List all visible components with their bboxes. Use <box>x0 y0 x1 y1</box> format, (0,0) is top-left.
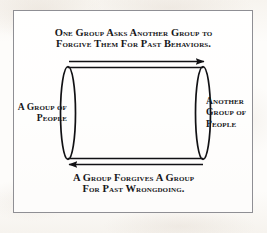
right-group-label-line-2: Group of <box>206 106 264 117</box>
right-group-label-line-3: People <box>206 118 264 129</box>
top-caption-line-2: Forgive Them For Past Behaviors. <box>0 38 267 49</box>
bottom-caption-line-1: A Group Forgives A Group <box>0 172 267 183</box>
top-caption-line-1: One Group Asks Another Group to <box>0 27 267 38</box>
top-caption: One Group Asks Another Group to Forgive … <box>0 27 267 49</box>
bottom-caption-line-2: For Past Wrongdoing. <box>0 183 267 194</box>
cylinder-body <box>68 68 203 159</box>
right-group-label-line-1: Another <box>206 95 264 106</box>
right-group-label: Another Group of People <box>206 95 264 129</box>
left-group-label-line-2: People <box>6 112 67 123</box>
diagram-page: One Group Asks Another Group to Forgive … <box>0 0 267 233</box>
left-group-label: A Group of People <box>6 101 67 123</box>
left-group-label-line-1: A Group of <box>6 101 67 112</box>
bottom-caption: A Group Forgives A Group For Past Wrongd… <box>0 172 267 194</box>
